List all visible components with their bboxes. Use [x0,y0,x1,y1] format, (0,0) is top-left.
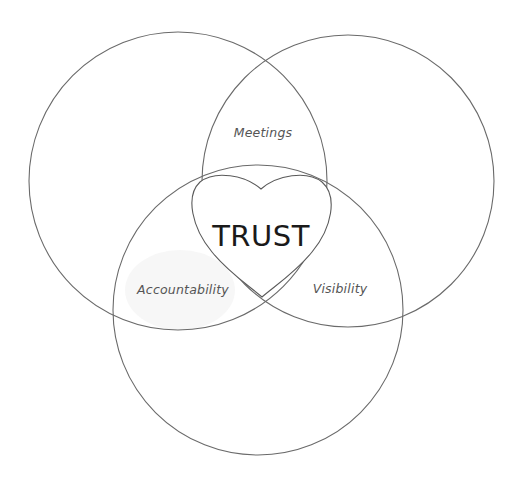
venn-diagram: Meetings TRUST Accountability Visibility [0,0,527,486]
region-label-accountability: Accountability [137,282,229,297]
region-label-visibility: Visibility [313,281,368,296]
center-label-trust: TRUST [212,219,310,253]
region-label-meetings: Meetings [234,125,293,140]
